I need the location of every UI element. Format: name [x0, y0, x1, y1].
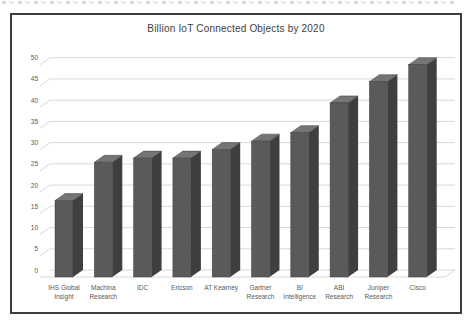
- bar-juniper-research: [369, 82, 387, 277]
- gridline-slant: [40, 249, 50, 256]
- gridline-slant: [40, 100, 50, 107]
- floor-right-edge: [445, 270, 455, 277]
- bar-bi-intelligence: [291, 133, 309, 277]
- x-category-label: Research: [247, 293, 275, 300]
- bar-side-ihs-global-insight: [73, 194, 83, 277]
- x-category-label: Gartner: [249, 284, 272, 291]
- bar-side-cisco: [427, 58, 437, 277]
- screenshot-page: Billion IoT Connected Objects by 2020 05…: [0, 0, 469, 322]
- y-tick-label: 25: [31, 160, 39, 167]
- y-tick-label: 15: [31, 203, 39, 210]
- bar-side-abi-research: [348, 96, 358, 277]
- gridline-slant: [40, 143, 50, 150]
- y-tick-label: 35: [31, 118, 39, 125]
- x-category-label: Research: [364, 293, 392, 300]
- bar-cisco: [409, 65, 427, 277]
- x-category-label: Intelligence: [283, 293, 316, 301]
- gridline-slant: [40, 58, 50, 65]
- gridline-slant: [40, 228, 50, 235]
- bar-gartner-research: [252, 141, 270, 277]
- x-category-label: IDC: [137, 284, 149, 291]
- bar-side-juniper-research: [387, 75, 397, 277]
- bar-side-at-kearney: [230, 143, 240, 277]
- truncated-caption-artifact: [2, 1, 454, 4]
- gridline-slant: [40, 79, 50, 86]
- bar-side-ericson: [191, 151, 201, 277]
- gridline-slant: [40, 206, 50, 213]
- y-tick-label: 30: [31, 139, 39, 146]
- bar-side-gartner-research: [270, 134, 280, 277]
- bar-side-machina-research: [112, 155, 122, 277]
- bar-machina-research: [94, 162, 112, 277]
- bar-at-kearney: [212, 150, 230, 277]
- bar-idc: [134, 158, 152, 277]
- x-category-label: ABI: [334, 284, 345, 291]
- y-tick-label: 10: [31, 224, 39, 231]
- y-tick-label: 20: [31, 182, 39, 189]
- plot-area: 05101520253035404550IHS GlobalInsightMac…: [12, 15, 460, 312]
- x-category-label: Research: [89, 293, 117, 300]
- gridline-slant: [40, 121, 50, 128]
- y-tick-label: 0: [34, 267, 38, 274]
- y-tick-label: 45: [31, 75, 39, 82]
- x-category-label: IHS Global: [48, 284, 80, 291]
- y-tick-label: 40: [31, 97, 39, 104]
- bar-ihs-global-insight: [55, 201, 73, 277]
- bar-abi-research: [330, 103, 348, 277]
- x-category-label: AT Kearney: [204, 284, 238, 292]
- y-tick-label: 50: [31, 54, 39, 61]
- x-category-label: Cisco: [410, 284, 427, 291]
- chart-frame: Billion IoT Connected Objects by 2020 05…: [10, 13, 462, 314]
- gridline-slant: [40, 185, 50, 192]
- bar-ericson: [173, 158, 191, 277]
- x-category-label: Research: [325, 293, 353, 300]
- x-category-label: BI: [297, 284, 303, 291]
- gridline-slant: [40, 164, 50, 171]
- bar-side-bi-intelligence: [309, 126, 319, 277]
- x-category-label: Machina: [91, 284, 116, 291]
- x-category-label: Insight: [54, 293, 73, 301]
- x-category-label: Juniper: [368, 284, 390, 292]
- bar-side-idc: [152, 151, 162, 277]
- x-category-label: Ericson: [171, 284, 193, 291]
- y-tick-label: 5: [34, 245, 38, 252]
